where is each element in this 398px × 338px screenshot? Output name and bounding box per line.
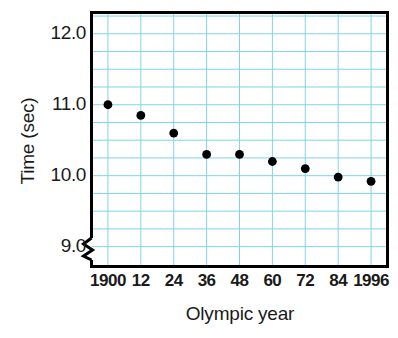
x-tick-label: 48 bbox=[231, 271, 249, 291]
data-point bbox=[169, 129, 178, 138]
x-axis-title: Olympic year bbox=[90, 303, 390, 325]
x-axis-tick-labels: 1900122436486072841996 bbox=[0, 271, 398, 297]
x-tick-label: 72 bbox=[296, 271, 314, 291]
x-tick-label: 60 bbox=[263, 271, 281, 291]
x-tick-label: 1900 bbox=[90, 271, 126, 291]
y-tick-label: 12.0 bbox=[30, 22, 86, 44]
data-point bbox=[202, 150, 211, 159]
scatter-chart: Time (sec) Olympic year 12.011.010.09.0 … bbox=[0, 0, 398, 338]
x-tick-label: 12 bbox=[132, 271, 150, 291]
data-point bbox=[268, 157, 277, 166]
data-point bbox=[334, 173, 343, 182]
data-point bbox=[367, 177, 376, 186]
data-point bbox=[235, 150, 244, 159]
data-point bbox=[301, 164, 310, 173]
y-tick-label: 11.0 bbox=[30, 93, 86, 115]
y-tick-label: 10.0 bbox=[30, 164, 86, 186]
data-point bbox=[104, 100, 113, 109]
x-tick-label: 36 bbox=[198, 271, 216, 291]
x-tick-label: 24 bbox=[165, 271, 183, 291]
y-tick-label: 9.0 bbox=[30, 235, 86, 257]
x-tick-label: 1996 bbox=[353, 271, 389, 291]
data-point bbox=[136, 111, 145, 120]
x-tick-label: 84 bbox=[329, 271, 347, 291]
